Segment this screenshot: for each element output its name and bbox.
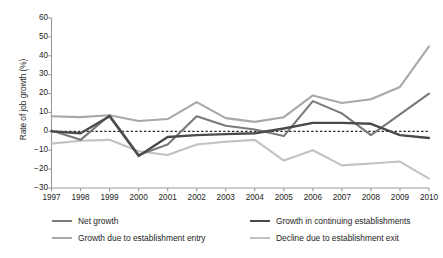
legend-swatch [52, 237, 72, 239]
legend-label: Growth in continuing establishments [276, 216, 411, 226]
legend-label: Decline due to establishment exit [276, 233, 399, 243]
x-axis-tick-label: 2010 [412, 194, 443, 202]
legend-item-decline-due-to-establishment-exit[interactable]: Decline due to establishment exit [250, 233, 436, 243]
legend-swatch [250, 220, 270, 222]
legend-swatch [250, 237, 270, 239]
legend-swatch [52, 220, 72, 222]
legend-row: Growth due to establishment entryDecline… [52, 229, 436, 246]
legend-row: Net growthGrowth in continuing establish… [52, 212, 436, 229]
legend-item-growth-due-to-establishment-entry[interactable]: Growth due to establishment entry [52, 233, 250, 243]
legend-label: Net growth [78, 216, 119, 226]
legend-label: Growth due to establishment entry [78, 233, 206, 243]
chart-legend: Net growthGrowth in continuing establish… [52, 212, 436, 246]
legend-item-growth-in-continuing-establishments[interactable]: Growth in continuing establishments [250, 216, 436, 226]
legend-item-net-growth[interactable]: Net growth [52, 216, 250, 226]
